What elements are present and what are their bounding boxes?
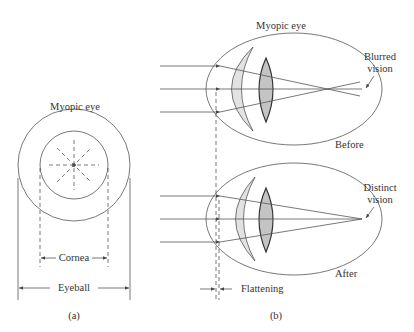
- flattening-label: Flattening: [241, 283, 284, 295]
- panel-b-before-eye: [160, 33, 382, 145]
- distinct-vision-label-line2: vision: [358, 194, 402, 206]
- cornea-label: Cornea: [56, 252, 92, 264]
- panel-b-caption: (b): [262, 310, 290, 322]
- eyeball-label: Eyeball: [50, 282, 98, 294]
- panel-b-title: Myopic eye: [250, 20, 312, 32]
- panel-a-title: Myopic eye: [44, 101, 106, 113]
- before-label: Before: [335, 139, 364, 151]
- panel-a-front-view: [18, 109, 130, 300]
- panel-a-caption: (a): [60, 310, 88, 322]
- distinct-vision-label-line1: Distinct: [358, 182, 402, 194]
- after-label: After: [335, 268, 357, 280]
- blurred-vision-label-line2: vision: [358, 63, 402, 75]
- myopia-diagram: Myopic eye Cornea Eyeball (a) Myopic eye…: [0, 0, 414, 332]
- blurred-vision-label-line1: Blurred: [358, 51, 402, 63]
